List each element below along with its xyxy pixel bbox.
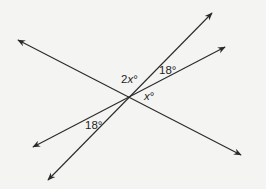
angle-label-18-lower: 18°	[85, 120, 102, 132]
lines-canvas	[0, 0, 266, 189]
angle-diagram: 2x° 18° x° 18°	[0, 0, 266, 189]
degree-symbol: °	[133, 73, 138, 85]
angle-label-x: x°	[144, 91, 154, 103]
angle-label-2x: 2x°	[121, 74, 138, 86]
degree-symbol: °	[150, 90, 155, 102]
angle-label-18-upper: 18°	[159, 65, 176, 77]
